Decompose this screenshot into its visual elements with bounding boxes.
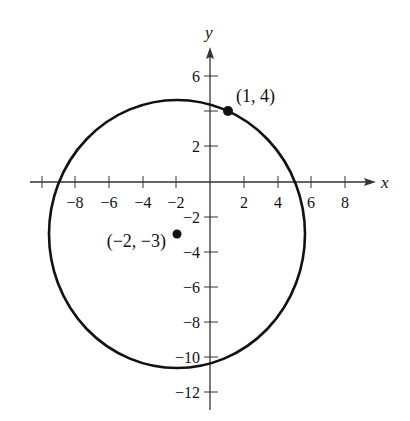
y-axis-label: y — [203, 23, 213, 42]
x-tick-label: 4 — [274, 194, 282, 211]
x-tick-label: −8 — [66, 194, 83, 211]
point-1-4 — [223, 106, 233, 116]
x-tick-label: 8 — [341, 194, 349, 211]
x-tick-label: 2 — [240, 194, 248, 211]
x-tick-label: −4 — [134, 194, 151, 211]
center-point-label: (−2, −3) — [107, 231, 166, 252]
y-tick-label: −4 — [183, 244, 200, 261]
center-point — [173, 230, 182, 239]
y-tick-label: −12 — [175, 384, 200, 401]
y-ticks — [204, 76, 218, 392]
x-tick-labels: −8 −6 −4 −2 2 4 6 8 — [66, 194, 349, 211]
circle-graph: x y −8 −6 −4 −2 2 4 6 8 6 2 — [0, 0, 410, 421]
y-tick-label: −2 — [183, 209, 200, 226]
y-tick-label: 6 — [192, 68, 200, 85]
y-tick-label: 2 — [192, 138, 200, 155]
x-tick-label: −2 — [167, 194, 184, 211]
point-label-1-4: (1, 4) — [236, 86, 275, 107]
x-axis-label: x — [380, 173, 389, 192]
y-tick-label: −10 — [175, 349, 200, 366]
x-tick-label: 6 — [307, 194, 315, 211]
y-tick-label: −8 — [183, 314, 200, 331]
x-tick-label: −6 — [100, 194, 117, 211]
y-tick-label: −6 — [183, 279, 200, 296]
